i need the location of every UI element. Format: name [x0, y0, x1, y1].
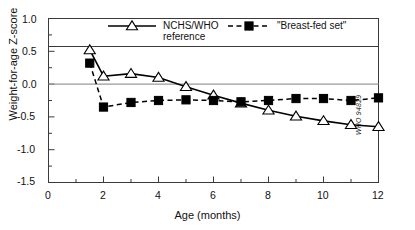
series-1-point-7 — [264, 96, 272, 104]
series-1-point-3 — [154, 96, 162, 104]
series-1-point-4 — [182, 96, 190, 104]
series-1-point-0 — [86, 59, 94, 67]
legend-item-1-marker — [245, 22, 253, 30]
series-line-0 — [90, 50, 379, 127]
series-1-point-9 — [319, 94, 327, 102]
series-1-point-2 — [127, 98, 135, 106]
data-series-group — [84, 45, 384, 131]
series-1-point-11 — [374, 94, 382, 102]
series-1-point-5 — [209, 96, 217, 104]
series-1-point-6 — [237, 98, 245, 106]
series-0-point-2 — [125, 68, 136, 77]
legend-marker-group — [108, 21, 270, 30]
series-1-point-1 — [99, 103, 107, 111]
plot-canvas — [0, 0, 415, 230]
series-1-point-8 — [292, 94, 300, 102]
series-1-point-10 — [347, 96, 355, 104]
chart-figure: Weight-for-age Z-score Age (months) WHO … — [0, 0, 415, 230]
